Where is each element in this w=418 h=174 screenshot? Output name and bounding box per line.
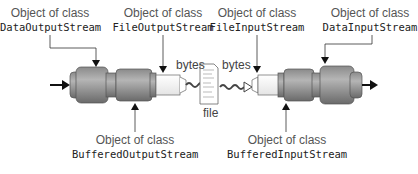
label-class-name: DataOutputStream	[0, 20, 100, 34]
bytes-chain-right	[220, 82, 252, 92]
output-arrow	[362, 80, 378, 90]
label-file-output-stream: Object of class FileOutputStream	[110, 6, 216, 34]
label-class-name: FileOutputStream	[110, 20, 216, 34]
bytes-label-right: bytes	[222, 58, 251, 72]
label-prefix: Object of class	[322, 6, 418, 20]
label-prefix: Object of class	[205, 6, 309, 20]
label-buffered-output-stream: Object of class BufferedOutputStream	[72, 133, 198, 161]
label-class-name: BufferedInputStream	[227, 147, 347, 161]
leader-buffered-output	[131, 103, 139, 132]
label-data-output-stream: Object of class DataOutputStream	[0, 6, 100, 34]
buffered-input-stream-cylinder	[278, 69, 322, 101]
label-prefix: Object of class	[227, 133, 347, 147]
buffered-output-stream-cylinder	[116, 69, 156, 101]
data-output-stream-cylinder	[70, 67, 116, 103]
label-prefix: Object of class	[72, 133, 198, 147]
leader-data-input	[321, 35, 372, 64]
file-input-stream-pipe	[252, 75, 280, 95]
leader-buffered-input	[282, 103, 290, 132]
leader-data-output	[50, 35, 100, 67]
leader-file-output	[159, 35, 167, 73]
label-file-input-stream: Object of class FileInputStream	[205, 6, 309, 34]
bytes-label-left: bytes	[176, 58, 205, 72]
label-class-name: BufferedOutputStream	[72, 147, 198, 161]
file-output-stream-pipe	[156, 75, 186, 95]
leader-file-input	[253, 35, 261, 73]
label-data-input-stream: Object of class DataInputStream	[322, 6, 418, 34]
label-class-name: FileInputStream	[205, 20, 309, 34]
file-label: file	[203, 106, 218, 120]
label-buffered-input-stream: Object of class BufferedInputStream	[227, 133, 347, 161]
label-prefix: Object of class	[0, 6, 100, 20]
label-prefix: Object of class	[110, 6, 216, 20]
input-arrow	[50, 80, 70, 90]
label-class-name: DataInputStream	[322, 20, 418, 34]
data-input-stream-cylinder	[320, 66, 362, 104]
